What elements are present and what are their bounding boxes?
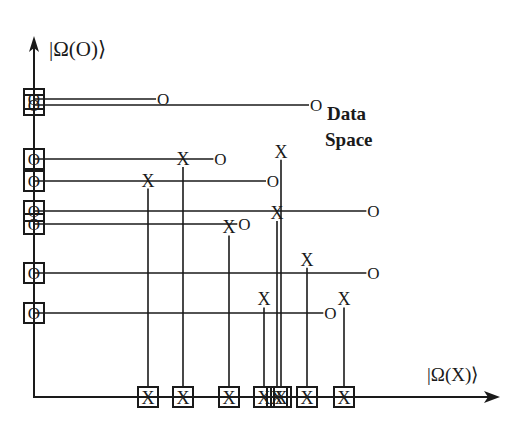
data-space-label-line1: Data [327,103,367,124]
x-data-point: X [177,149,190,169]
x-axis-projection: X [142,388,155,408]
x-axis-projection: X [258,388,271,408]
o-projection: OO [24,201,380,221]
o-data-point: O [367,202,379,221]
o-data-point: O [367,264,379,283]
x-axis-projection: X [177,388,190,408]
x-data-point: X [338,289,351,309]
o-projection: OO [24,214,250,234]
x-axis-projection: X [275,388,288,408]
x-projection: XX [173,149,193,408]
o-axis-projection: O [28,215,40,234]
o-projection: OO [24,303,337,323]
x-projection: XX [138,171,158,408]
o-axis-projection: O [28,304,40,323]
o-data-point: O [324,304,336,323]
o-axis-projection: O [28,150,40,169]
o-data-point: O [157,90,169,109]
x-projection: XX [334,289,354,408]
x-data-point: X [142,171,155,191]
data-space-label-line2: Space [325,129,373,150]
o-projection: OO [24,89,169,109]
y-axis-label: |Ω(O)⟩ [49,37,106,61]
x-axis-projection: X [301,388,314,408]
data-space-diagram: |Ω(O)⟩ |Ω(X)⟩ Data Space OOOOOOOOOOOOOOO… [0,0,518,425]
x-data-point: X [223,217,236,237]
o-data-point: O [310,96,322,115]
o-projection: OO [24,149,227,169]
x-axis-label: |Ω(X)⟩ [427,364,478,386]
o-data-point: O [238,215,250,234]
o-projections: OOOOOOOOOOOOOOOO [24,89,380,323]
x-data-point: X [301,250,314,270]
o-projection: OO [24,263,380,283]
o-projection: OO [24,95,322,115]
o-axis-projection: O [28,264,40,283]
o-axis-projection: O [28,172,40,191]
x-data-point: X [275,142,288,162]
o-axis-projection: O [28,96,40,115]
x-data-point: X [258,289,271,309]
o-data-point: O [214,150,226,169]
x-axis-projection: X [338,388,351,408]
o-data-point: O [267,172,279,191]
x-axis-projection: X [223,388,236,408]
